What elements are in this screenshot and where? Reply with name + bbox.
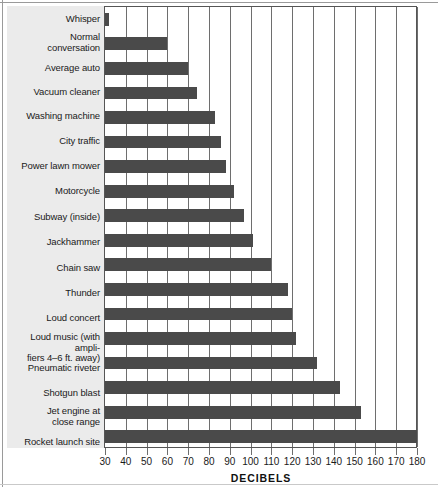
bars-container [105, 7, 416, 447]
category-label-subway-inside: Subway (inside) [8, 212, 100, 223]
bar-row [105, 136, 416, 149]
figure-border-left [2, 0, 3, 487]
category-label-text: Power lawn mower [21, 160, 100, 171]
x-tick-40 [126, 448, 127, 455]
category-label-text: Shotgun blast [43, 387, 100, 398]
bar-row [105, 406, 416, 419]
x-tick-50 [147, 448, 148, 455]
category-label-whisper: Whisper [8, 14, 100, 25]
category-label-motorcycle: Motorcycle [8, 186, 100, 197]
category-label-text-line1: Loud music (with ampli- [8, 332, 100, 353]
bar [105, 185, 234, 198]
bar-row [105, 357, 416, 370]
bar [105, 209, 244, 222]
x-tick-170 [396, 448, 397, 455]
x-tick-140 [334, 448, 335, 455]
x-axis-title: DECIBELS [105, 472, 417, 484]
category-label-text: Washing machine [26, 110, 100, 121]
category-label-text: Whisper [66, 13, 100, 24]
bar-row [105, 430, 416, 443]
bar [105, 308, 292, 321]
bar-row [105, 283, 416, 296]
x-tick-60 [167, 448, 168, 455]
x-tick-90 [230, 448, 231, 455]
category-label-rocket-launch-site: Rocket launch site [8, 437, 100, 448]
category-label-jackhammer: Jackhammer [8, 237, 100, 248]
x-tick-70 [188, 448, 189, 455]
bar-row [105, 62, 416, 75]
bar [105, 283, 288, 296]
bar-row [105, 234, 416, 247]
x-tick-160 [375, 448, 376, 455]
bar [105, 160, 226, 173]
bar-row [105, 87, 416, 100]
category-label-vacuum-cleaner: Vacuum cleaner [8, 87, 100, 98]
x-tick-110 [271, 448, 272, 455]
category-label-normal-conversation: Normal conversation [8, 32, 100, 53]
x-tick-100 [251, 448, 252, 455]
category-label-text: City traffic [59, 135, 100, 146]
x-tick-150 [355, 448, 356, 455]
category-label-power-lawn-mower: Power lawn mower [8, 161, 100, 172]
category-label-text: Subway (inside) [34, 211, 100, 222]
decibel-bar-chart-figure: Whisper Normal conversation Average auto… [0, 0, 438, 487]
category-label-text: Vacuum cleaner [33, 86, 100, 97]
gridline-180 [417, 7, 418, 447]
category-label-jet-engine: Jet engine at close range [8, 406, 100, 427]
x-tick-120 [292, 448, 293, 455]
x-tick-80 [209, 448, 210, 455]
figure-border-top [0, 2, 438, 3]
x-tick-label-180: 180 [402, 456, 432, 467]
bar-row [105, 37, 416, 50]
category-label-loud-concert: Loud concert [8, 313, 100, 324]
category-label-chain-saw: Chain saw [8, 263, 100, 274]
category-label-text: Rocket launch site [24, 436, 100, 447]
category-label-text-line2: close range [8, 417, 100, 428]
plot-area [105, 6, 417, 448]
category-label-text: Thunder [65, 287, 100, 298]
bar-row [105, 185, 416, 198]
category-label-washing-machine: Washing machine [8, 111, 100, 122]
category-label-thunder: Thunder [8, 288, 100, 299]
category-label-loud-music: Loud music (with ampli- fiers 4–6 ft. aw… [8, 332, 100, 364]
category-label-pneumatic-riveter: Pneumatic riveter [8, 363, 100, 374]
bar-row [105, 13, 416, 26]
category-label-text-line1: Normal [8, 32, 100, 43]
category-label-text: Jackhammer [47, 236, 100, 247]
category-label-text: Pneumatic riveter [28, 362, 100, 373]
category-label-text: Loud concert [46, 312, 100, 323]
bar-row [105, 160, 416, 173]
category-labels: Whisper Normal conversation Average auto… [7, 6, 105, 448]
bar [105, 111, 215, 124]
bar-row [105, 209, 416, 222]
bar [105, 406, 361, 419]
bar [105, 87, 197, 100]
bar-row [105, 308, 416, 321]
category-label-text: Chain saw [57, 262, 100, 273]
bar [105, 332, 296, 345]
x-tick-180 [417, 448, 418, 455]
category-label-average-auto: Average auto [8, 63, 100, 74]
category-label-text: Average auto [45, 62, 100, 73]
bar [105, 357, 317, 370]
category-label-text-line1: Jet engine at [8, 406, 100, 417]
x-axis: 3040506070809010011012013014015016017018… [7, 448, 431, 487]
bar-row [105, 111, 416, 124]
x-tick-30 [105, 448, 106, 455]
bar [105, 258, 271, 271]
category-label-city-traffic: City traffic [8, 136, 100, 147]
bar [105, 234, 253, 247]
bar-row [105, 258, 416, 271]
bar [105, 430, 417, 443]
bar-row [105, 332, 416, 345]
category-label-shotgun-blast: Shotgun blast [8, 388, 100, 399]
x-tick-130 [313, 448, 314, 455]
bar [105, 381, 340, 394]
category-label-text: Motorcycle [55, 185, 100, 196]
bar [105, 13, 109, 26]
chart-area: Whisper Normal conversation Average auto… [7, 6, 431, 448]
bar [105, 136, 221, 149]
bar [105, 62, 188, 75]
x-axis-title-wrap: DECIBELS [105, 472, 417, 484]
bar-row [105, 381, 416, 394]
